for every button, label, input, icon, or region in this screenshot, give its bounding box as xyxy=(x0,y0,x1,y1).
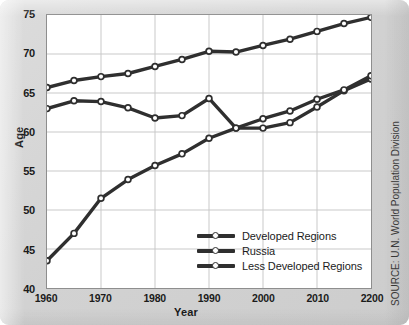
legend-item-less-developed-regions[interactable]: Less Developed Regions xyxy=(197,258,362,273)
y-tick-label: 50 xyxy=(9,204,35,216)
chart-legend: Developed Regions Russia Less Developed … xyxy=(197,228,362,273)
x-tick-label: 2200 xyxy=(361,292,384,304)
y-tick-label: 55 xyxy=(9,165,35,177)
legend-label: Russia xyxy=(242,245,275,257)
chart-figure: 4045505560657075 19601970198019902000201… xyxy=(0,0,409,325)
y-tick-label: 40 xyxy=(9,283,35,295)
y-tick-label: 65 xyxy=(9,87,35,99)
x-tick-label: 1960 xyxy=(35,292,58,304)
legend-item-developed-regions[interactable]: Developed Regions xyxy=(197,228,362,243)
y-tick-label: 45 xyxy=(9,244,35,256)
legend-line-marker-icon xyxy=(197,230,235,241)
x-tick-label: 2010 xyxy=(306,292,329,304)
legend-line-marker-icon xyxy=(197,245,235,256)
y-tick-label: 70 xyxy=(9,47,35,59)
y-tick-label: 75 xyxy=(9,8,35,20)
legend-label: Developed Regions xyxy=(242,230,336,242)
x-tick-label: 1980 xyxy=(143,292,166,304)
legend-line-marker-icon xyxy=(197,260,235,271)
source-credit: SOURCE: U.N. World Population Division xyxy=(390,121,401,306)
legend-label: Less Developed Regions xyxy=(242,260,362,272)
x-tick-label: 1990 xyxy=(198,292,221,304)
x-tick-label: 2000 xyxy=(252,292,275,304)
legend-item-russia[interactable]: Russia xyxy=(197,243,362,258)
x-tick-label: 1970 xyxy=(89,292,112,304)
y-axis-title: Age xyxy=(13,127,25,148)
x-axis-title: Year xyxy=(0,306,372,318)
